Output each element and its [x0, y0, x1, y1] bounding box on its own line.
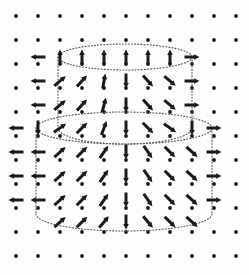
field-arrow: [35, 121, 41, 136]
arrow-head: [9, 125, 14, 131]
field-arrow: [9, 125, 24, 131]
field-arrow: [145, 50, 151, 65]
field-arrow: [31, 197, 46, 203]
arrow-head: [9, 173, 14, 179]
arrow-head: [31, 197, 36, 203]
arrow-head: [216, 173, 221, 179]
field-arrow: [101, 121, 107, 135]
arrow-shaft: [77, 220, 85, 228]
arrow-shaft: [165, 217, 173, 225]
arrow-head: [31, 78, 36, 84]
field-arrow: [123, 145, 129, 160]
arrow-head: [123, 202, 129, 207]
arrow-shaft: [54, 150, 62, 157]
arrow-shaft: [54, 220, 62, 227]
arrow-head: [57, 50, 63, 55]
field-arrow: [77, 75, 87, 86]
field-arrow: [207, 173, 222, 179]
arrow-head: [123, 107, 129, 112]
field-arrow: [144, 194, 153, 206]
field-arrow: [164, 76, 175, 86]
arrow-shaft: [100, 173, 106, 182]
field-arrow: [185, 54, 200, 60]
arrow-shaft: [77, 174, 85, 182]
arrow-head: [9, 197, 14, 203]
field-arrow: [123, 98, 129, 113]
field-arrow: [207, 125, 222, 131]
arrow-head: [31, 54, 36, 60]
arrow-head: [216, 149, 221, 155]
arrow-shaft: [77, 126, 85, 134]
arrow-head: [123, 154, 129, 159]
arrow-shaft: [186, 147, 194, 154]
field-arrow: [77, 171, 88, 182]
arrow-shaft: [144, 146, 150, 155]
arrow-shaft: [54, 198, 62, 205]
arrow-shaft: [77, 150, 85, 158]
field-arrow: [186, 171, 197, 181]
field-arrow: [165, 217, 176, 228]
field-arrow: [31, 173, 46, 179]
arrow-shaft: [77, 79, 84, 87]
arrow-shaft: [143, 216, 150, 224]
arrow-shaft: [164, 100, 172, 107]
field-arrow: [165, 195, 176, 206]
arrow-head: [216, 197, 221, 203]
field-arrow: [186, 147, 197, 157]
arrow-shaft: [143, 123, 151, 131]
arrow-head: [123, 130, 129, 135]
arrow-shaft: [54, 174, 62, 181]
arrow-head: [35, 130, 41, 135]
field-arrow: [57, 50, 63, 65]
field-arrow: [123, 169, 129, 184]
arrow-head: [189, 130, 195, 135]
arrow-head: [194, 102, 199, 108]
arrow-head: [123, 224, 129, 229]
arrow-shaft: [165, 171, 173, 179]
field-arrow: [143, 216, 153, 227]
arrow-shaft: [54, 103, 62, 110]
arrow-shaft: [144, 194, 150, 203]
arrow-head: [123, 50, 129, 55]
arrow-head: [102, 74, 107, 80]
arrow-head: [31, 173, 36, 179]
field-arrow: [185, 102, 200, 108]
field-arrow: [123, 215, 129, 230]
field-arrow: [102, 98, 107, 112]
arrow-shaft: [99, 219, 106, 227]
arrow-head: [31, 102, 36, 108]
field-arrow: [77, 147, 88, 158]
arrow-head: [102, 98, 107, 104]
field-arrow: [102, 74, 107, 89]
arrow-shaft: [164, 124, 173, 130]
field-arrow: [9, 149, 24, 155]
field-arrow: [77, 99, 87, 110]
field-arrow: [164, 100, 175, 110]
field-arrow: [123, 74, 129, 89]
field-arrow: [143, 123, 154, 134]
field-arrow: [77, 123, 88, 134]
field-arrow: [123, 193, 129, 208]
field-arrow: [54, 171, 65, 181]
field-arrow: [123, 50, 129, 65]
field-arrow: [9, 197, 24, 203]
arrow-shaft: [101, 125, 105, 135]
arrow-shaft: [54, 79, 62, 86]
field-arrow: [143, 99, 153, 110]
field-arrow: [207, 149, 222, 155]
vector-field-figure: [0, 0, 249, 275]
arrow-head: [31, 149, 36, 155]
arrow-shaft: [54, 126, 63, 132]
field-arrow: [207, 197, 222, 203]
field-arrow: [99, 216, 109, 227]
arrow-head: [101, 50, 107, 55]
arrow-shaft: [100, 149, 106, 158]
arrow-shaft: [143, 75, 150, 83]
field-arrow: [54, 217, 65, 227]
field-arrow: [164, 124, 176, 133]
arrow-shaft: [102, 102, 105, 112]
field-arrow: [54, 195, 65, 205]
field-arrow: [100, 146, 109, 158]
field-arrow: [31, 149, 46, 155]
field-arrow: [31, 102, 46, 108]
